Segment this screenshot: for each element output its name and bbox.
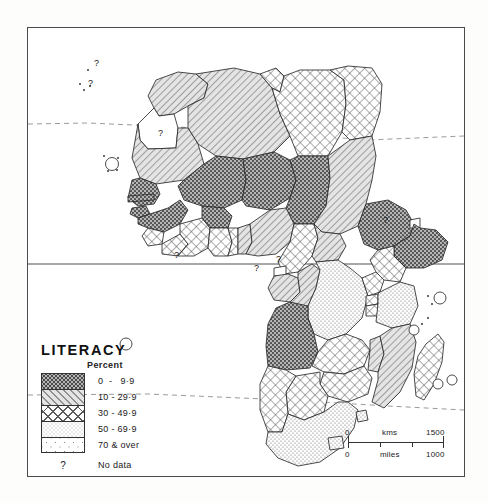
legend-label-50-69: 50 - 69·9 (98, 424, 137, 434)
legend-label-0-9: 0 - 9·9 (98, 376, 135, 386)
island-seychelles[interactable] (434, 292, 446, 304)
scalebar-tick-start (348, 436, 349, 448)
legend-swatch-30-49 (41, 405, 85, 421)
island-canary[interactable] (106, 158, 119, 171)
no-data-mark: ? (276, 254, 281, 264)
no-data-mark: ? (383, 215, 388, 225)
legend-label-30-49: 30 - 49·9 (98, 408, 137, 418)
legend-item-10-29[interactable]: 10 - 29·9 (41, 389, 201, 405)
scalebar-miles-min: 0 (345, 450, 350, 459)
map-figure: ? ? ? ? ? ? ? LITERACY Percent 0 - 9·9 (0, 0, 488, 503)
country-madagascar[interactable] (414, 334, 444, 400)
scalebar-tick-mid1 (380, 442, 381, 447)
legend-swatch-70-over (41, 437, 85, 453)
legend-label-70-over: 70 & over (98, 440, 139, 450)
no-data-mark: ? (254, 263, 259, 273)
legend-item-0-9[interactable]: 0 - 9·9 (41, 373, 201, 389)
country-tanzania[interactable] (376, 282, 418, 328)
scalebar-kms-min: 0 (345, 428, 350, 437)
legend-item-50-69[interactable]: 50 - 69·9 (41, 421, 201, 437)
scale-bar: 0 kms 1500 0 miles 1000 (344, 428, 449, 468)
country-niger[interactable] (242, 152, 296, 210)
scalebar-axis-line (348, 442, 443, 443)
scalebar-miles-max: 1000 (426, 450, 445, 459)
legend-units-label: Percent (87, 360, 201, 370)
scalebar-tick-end (443, 436, 444, 448)
island-mauritius[interactable] (447, 375, 457, 385)
no-data-mark: ? (174, 250, 179, 260)
island-comoros[interactable] (409, 325, 419, 335)
island-reunion[interactable] (433, 379, 443, 389)
legend-item-no-data[interactable]: ? No data (41, 457, 201, 473)
scalebar-tick-mid2 (412, 442, 413, 447)
no-data-symbol: ? (41, 457, 85, 473)
legend-rows: 0 - 9·9 10 - 29·9 30 - 49·9 50 - 69·9 (41, 373, 201, 473)
legend-label-no-data: No data (98, 460, 132, 470)
legend-swatch-50-69 (41, 421, 85, 437)
country-lesotho[interactable] (328, 436, 344, 450)
country-ivory-coast[interactable] (178, 218, 210, 256)
no-data-mark: ? (94, 58, 99, 68)
legend-swatch-0-9 (41, 373, 85, 389)
map-legend: LITERACY Percent 0 - 9·9 10 - 29·9 30 - … (41, 342, 201, 470)
country-ghana[interactable] (208, 228, 232, 256)
map-frame: ? ? ? ? ? ? ? LITERACY Percent 0 - 9·9 (27, 27, 465, 477)
scalebar-kms-max: 1500 (426, 428, 445, 437)
no-data-mark: ? (88, 78, 93, 88)
country-burundi[interactable] (366, 304, 378, 316)
country-swaziland[interactable] (356, 410, 368, 422)
legend-item-30-49[interactable]: 30 - 49·9 (41, 405, 201, 421)
legend-item-70-over[interactable]: 70 & over (41, 437, 201, 453)
scalebar-kms-unit: kms (382, 428, 397, 437)
legend-label-10-29: 10 - 29·9 (98, 392, 137, 402)
scalebar-miles-unit: miles (380, 450, 400, 459)
legend-title: LITERACY (41, 342, 201, 358)
legend-swatch-10-29 (41, 389, 85, 405)
no-data-mark: ? (158, 128, 163, 138)
